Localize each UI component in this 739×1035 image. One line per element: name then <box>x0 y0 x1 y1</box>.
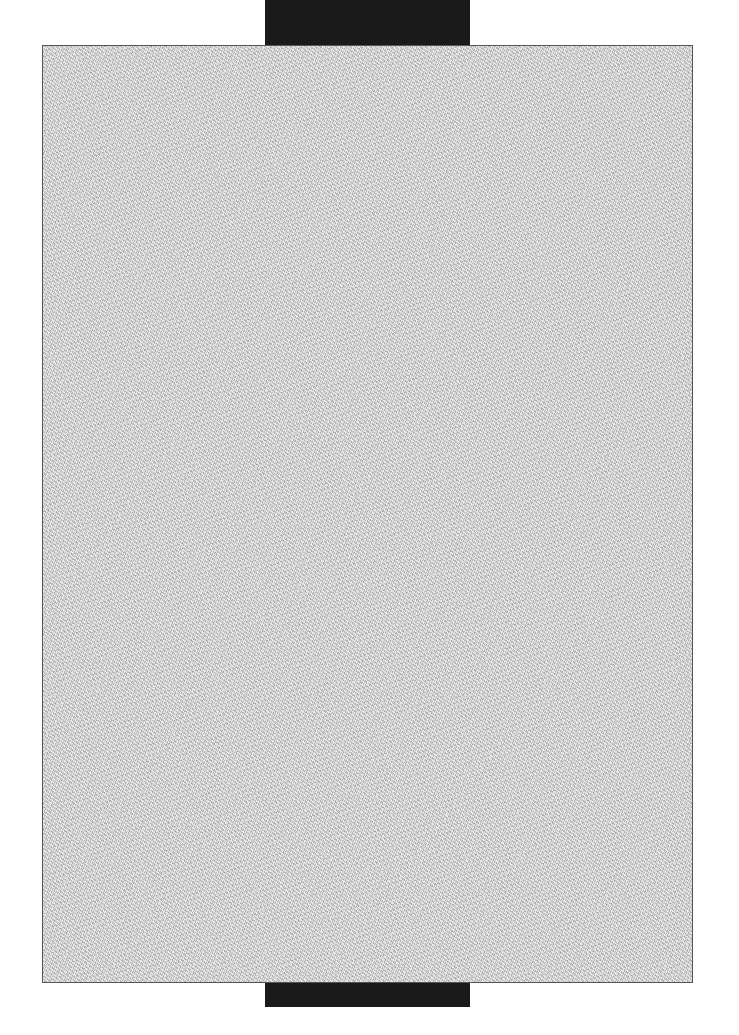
scanner-bar-top <box>265 0 470 46</box>
scanner-bar-bottom <box>265 983 470 1007</box>
scanned-page <box>42 45 693 983</box>
